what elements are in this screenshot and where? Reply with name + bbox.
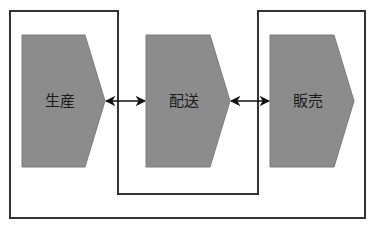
diagram-canvas	[0, 0, 372, 228]
step-label-sales: 販売	[268, 92, 348, 110]
step-label-production: 生産	[20, 92, 100, 110]
step-label-delivery: 配送	[144, 92, 224, 110]
